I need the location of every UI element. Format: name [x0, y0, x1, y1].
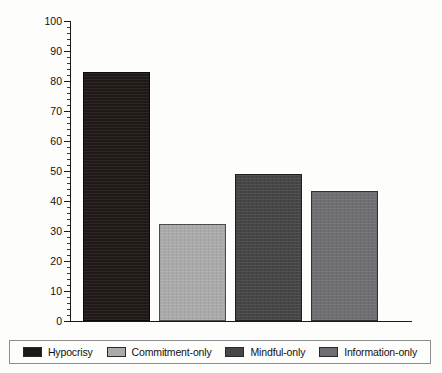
y-tick-minor [67, 189, 70, 190]
y-tick-minor [67, 57, 70, 58]
y-tick-minor [67, 207, 70, 208]
y-tick-minor [67, 297, 70, 298]
y-tick-minor [67, 285, 70, 286]
y-tick-minor [67, 183, 70, 184]
y-tick-minor [67, 255, 70, 256]
y-tick-label: 0 [34, 316, 62, 327]
y-tick-minor [67, 153, 70, 154]
y-tick-major [64, 201, 70, 202]
y-tick-minor [67, 165, 70, 166]
y-tick-minor [67, 75, 70, 76]
legend-swatch-icon [225, 347, 244, 357]
legend-label: Hypocrisy [48, 346, 93, 358]
y-tick-minor [67, 213, 70, 214]
y-tick-minor [67, 147, 70, 148]
y-tick-minor [67, 225, 70, 226]
y-tick-major [64, 21, 70, 22]
y-tick-minor [67, 315, 70, 316]
legend-swatch-icon [107, 347, 126, 357]
bar-mindful-only [235, 174, 302, 321]
y-tick-label: 40 [34, 196, 62, 207]
legend-item: Information-only [319, 346, 417, 358]
y-axis-line [70, 21, 71, 322]
y-tick-minor [67, 195, 70, 196]
y-tick-minor [67, 219, 70, 220]
bar-hypocrisy [83, 72, 150, 321]
legend-item: Hypocrisy [23, 346, 93, 358]
y-tick-major [64, 231, 70, 232]
y-tick-major [64, 291, 70, 292]
y-tick-minor [67, 249, 70, 250]
bar-information-only [311, 191, 378, 322]
y-tick-major [64, 51, 70, 52]
y-tick-minor [67, 45, 70, 46]
legend-label: Information-only [344, 346, 417, 358]
x-axis-line [70, 321, 412, 322]
bar-chart-figure: Percentage of subjects who purchased con… [0, 0, 442, 373]
y-tick-minor [67, 123, 70, 124]
y-tick-minor [67, 237, 70, 238]
legend-label: Commitment-only [132, 346, 212, 358]
y-tick-minor [67, 135, 70, 136]
chart-legend: HypocrisyCommitment-onlyMindful-onlyInfo… [9, 340, 431, 364]
y-tick-minor [67, 273, 70, 274]
y-tick-minor [67, 69, 70, 70]
y-tick-major [64, 111, 70, 112]
y-tick-minor [67, 177, 70, 178]
y-tick-label: 80 [34, 76, 62, 87]
y-tick-minor [67, 33, 70, 34]
plot-area: 0102030405060708090100 [70, 21, 420, 321]
y-tick-label: 100 [34, 16, 62, 27]
bar-commitment-only [159, 224, 226, 322]
y-tick-minor [67, 105, 70, 106]
y-tick-label: 70 [34, 106, 62, 117]
y-tick-major [64, 321, 70, 322]
y-tick-label: 20 [34, 256, 62, 267]
y-tick-minor [67, 63, 70, 64]
legend-swatch-icon [319, 347, 338, 357]
y-tick-minor [67, 129, 70, 130]
y-tick-minor [67, 93, 70, 94]
y-tick-minor [67, 267, 70, 268]
y-tick-minor [67, 39, 70, 40]
legend-label: Mindful-only [250, 346, 305, 358]
y-tick-label: 30 [34, 226, 62, 237]
y-tick-major [64, 81, 70, 82]
y-tick-minor [67, 309, 70, 310]
y-tick-major [64, 141, 70, 142]
legend-item: Mindful-only [225, 346, 305, 358]
y-tick-major [64, 171, 70, 172]
y-tick-minor [67, 303, 70, 304]
y-tick-label: 60 [34, 136, 62, 147]
y-tick-label: 50 [34, 166, 62, 177]
y-tick-major [64, 261, 70, 262]
legend-item: Commitment-only [107, 346, 212, 358]
y-tick-minor [67, 99, 70, 100]
y-tick-minor [67, 87, 70, 88]
y-tick-label: 90 [34, 46, 62, 57]
legend-swatch-icon [23, 347, 42, 357]
y-tick-minor [67, 27, 70, 28]
y-tick-minor [67, 117, 70, 118]
y-tick-label: 10 [34, 286, 62, 297]
y-tick-minor [67, 279, 70, 280]
y-tick-minor [67, 159, 70, 160]
y-tick-minor [67, 243, 70, 244]
